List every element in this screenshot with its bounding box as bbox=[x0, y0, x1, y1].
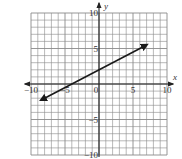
x-axis-label: x bbox=[172, 72, 177, 82]
x-tick-label: 10 bbox=[163, 85, 173, 95]
x-tick-label: 0 bbox=[94, 85, 99, 95]
y-tick-label: −5 bbox=[88, 115, 98, 125]
y-axis-label: y bbox=[103, 1, 108, 11]
coordinate-plane: −10−50510105−5−10 x y bbox=[0, 0, 182, 159]
x-tick-label: 5 bbox=[131, 85, 136, 95]
y-tick-label: −10 bbox=[84, 150, 99, 159]
y-tick-label: 10 bbox=[89, 8, 99, 18]
y-tick-label: 5 bbox=[94, 44, 99, 54]
x-tick-label: −10 bbox=[24, 85, 39, 95]
